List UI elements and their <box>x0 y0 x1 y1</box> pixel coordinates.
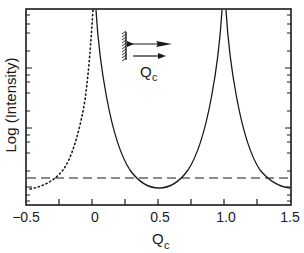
y-axis-title: Log (Intensity) <box>2 57 19 152</box>
x-tick-label: 1.5 <box>280 209 300 225</box>
x-tick-label: 0 <box>91 209 99 225</box>
wave-packet-icon <box>156 41 172 47</box>
plot-frame <box>26 9 291 205</box>
inset-diagram: Q c <box>122 31 172 83</box>
x-axis-title-main: Q <box>152 230 164 247</box>
solid-curve-segment-1 <box>96 10 222 188</box>
chart: Q c −0.5 0 0.5 1.0 1.5 Q c Log (Intensit… <box>0 0 304 253</box>
arrow-right-icon <box>158 53 166 59</box>
x-tick-label: −0.5 <box>12 209 40 225</box>
x-axis-ticks <box>59 199 257 205</box>
x-tick-label: 0.5 <box>150 209 170 225</box>
dotted-curve <box>30 10 93 189</box>
inset-label-sub: c <box>152 71 158 83</box>
x-axis-title-sub: c <box>164 239 170 251</box>
solid-curve-segment-2 <box>226 10 290 188</box>
inset-label-main: Q <box>140 63 152 80</box>
x-tick-label: 1.0 <box>216 209 236 225</box>
y-axis-ticks-right <box>285 15 291 201</box>
y-axis-ticks-left <box>26 15 32 201</box>
